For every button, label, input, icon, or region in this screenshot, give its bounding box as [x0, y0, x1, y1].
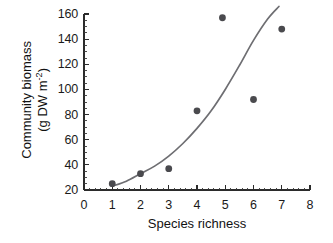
y-tick-label: 60 — [50, 134, 78, 147]
x-tick-label: 4 — [185, 199, 209, 212]
data-points-group — [109, 14, 285, 187]
data-point — [278, 26, 285, 33]
x-tick-label: 6 — [242, 199, 266, 212]
minor-ticks-group — [84, 20, 304, 190]
major-ticks-group — [84, 14, 310, 190]
y-tick-label: 160 — [50, 8, 78, 21]
y-axis-title-line-2: (g DW m-2) — [35, 10, 51, 190]
x-tick-label: 1 — [100, 199, 124, 212]
y-tick-label: 100 — [50, 83, 78, 96]
x-tick-label: 5 — [213, 199, 237, 212]
data-point — [137, 170, 144, 177]
x-tick-label: 2 — [129, 199, 153, 212]
y-axis-unit-suffix: ) — [35, 68, 50, 72]
y-tick-label: 140 — [50, 33, 78, 46]
data-point — [194, 107, 201, 114]
x-tick-label: 3 — [157, 199, 181, 212]
data-point — [165, 165, 172, 172]
y-axis-title-line-1: Community biomass — [19, 10, 35, 190]
y-axis-title: Community biomass (g DW m-2) — [19, 10, 51, 190]
figure-container: 012345678 20406080100120140160 Species r… — [0, 0, 333, 243]
x-axis-title: Species richness — [84, 216, 310, 231]
x-tick-label: 7 — [270, 199, 294, 212]
y-axis-unit-prefix: (g DW m — [35, 80, 50, 131]
y-tick-label: 80 — [50, 109, 78, 122]
data-point — [219, 14, 226, 21]
data-point — [109, 180, 116, 187]
y-tick-label: 120 — [50, 58, 78, 71]
axes-group — [84, 14, 310, 190]
x-tick-label: 8 — [298, 199, 322, 212]
data-point — [250, 96, 257, 103]
y-axis-unit-exponent: -2 — [34, 72, 44, 80]
y-tick-label: 20 — [50, 184, 78, 197]
y-tick-label: 40 — [50, 159, 78, 172]
x-tick-label: 0 — [72, 199, 96, 212]
